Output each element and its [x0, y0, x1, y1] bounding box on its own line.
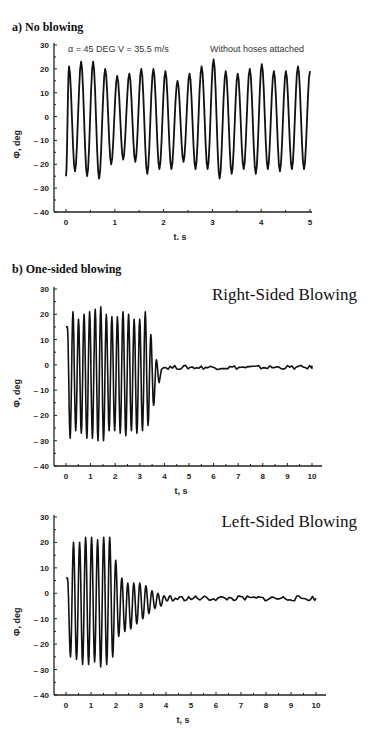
x-tick-label: 4	[164, 701, 169, 710]
x-tick-label: 9	[289, 701, 294, 710]
x-tick-label: 8	[264, 701, 269, 710]
x-tick-label: 7	[239, 701, 244, 710]
x-tick-label: 1	[89, 701, 94, 710]
y-axis-label: Φ, deg	[12, 608, 22, 636]
chart-axes: 3020100– 10– 20– 30– 40012345678910t, sΦ…	[12, 512, 357, 725]
chart-left-sided-svg: 3020100– 10– 20– 30– 40012345678910t, sΦ…	[0, 0, 376, 734]
y-tick-label: 30	[40, 513, 49, 522]
waveform-line	[66, 537, 316, 667]
y-tick-label: 20	[40, 538, 49, 547]
y-tick-label: – 10	[33, 615, 49, 624]
x-tick-label: 10	[312, 701, 321, 710]
y-tick-label: – 30	[33, 666, 49, 675]
chart-left-sided: 3020100– 10– 20– 30– 40012345678910t, sΦ…	[0, 0, 376, 734]
x-tick-label: 2	[114, 701, 119, 710]
chart-title: Left-Sided Blowing	[221, 512, 357, 531]
y-tick-label: 10	[40, 564, 49, 573]
x-tick-label: 3	[139, 701, 144, 710]
x-tick-label: 6	[214, 701, 219, 710]
x-axis-label: t, s	[176, 715, 189, 725]
x-tick-label: 0	[64, 701, 69, 710]
x-tick-label: 5	[189, 701, 194, 710]
y-tick-label: – 20	[33, 640, 49, 649]
y-tick-label: – 40	[33, 691, 49, 700]
y-tick-label: 0	[45, 589, 50, 598]
